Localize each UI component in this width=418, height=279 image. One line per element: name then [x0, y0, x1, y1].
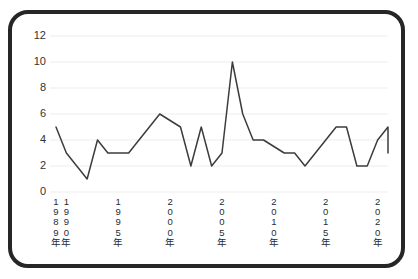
x-tick-label-2020: 2020年: [372, 197, 384, 248]
y-tick-label-8: 8: [24, 82, 46, 93]
y-tick-label-0: 0: [24, 186, 46, 197]
y-tick-label-12: 12: [24, 30, 46, 41]
x-tick-label-2015: 2015年: [320, 197, 332, 248]
y-tick-label-6: 6: [24, 108, 46, 119]
x-tick-label-2010: 2010年: [268, 197, 280, 248]
x-tick-label-1990: 1990年: [60, 197, 72, 248]
y-tick-label-2: 2: [24, 160, 46, 171]
x-tick-label-2000: 2000年: [164, 197, 176, 248]
x-tick-label-2005: 2005年: [216, 197, 228, 248]
x-tick-label-1995: 1995年: [112, 197, 124, 248]
y-tick-label-4: 4: [24, 134, 46, 145]
y-tick-label-10: 10: [24, 56, 46, 67]
